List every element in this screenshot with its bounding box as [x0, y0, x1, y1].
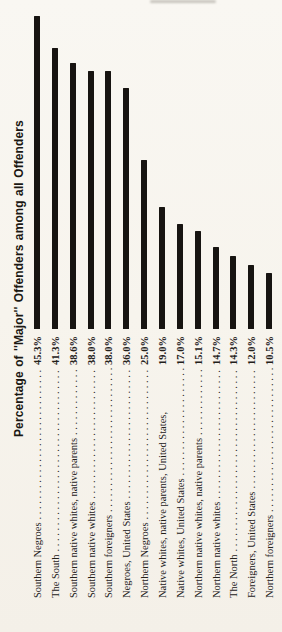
bar: [159, 207, 165, 329]
category-row: Northern native whites. . . . . . . . . …: [210, 336, 223, 598]
category-label: Native whites, native parents, United St…: [156, 412, 169, 598]
value-label: 41.3%: [49, 336, 62, 365]
dot-leader: . . . . . . . . . . . . . . . . . . . . …: [138, 368, 151, 520]
category-row: Southern native whites, native parents. …: [67, 336, 80, 598]
bar: [177, 224, 183, 329]
dot-leader: . . . . . . . . . . . . . . . . . . . . …: [120, 368, 133, 499]
value-label: 14.7%: [210, 336, 223, 365]
category-row: The South. . . . . . . . . . . . . . . .…: [49, 336, 62, 598]
dot-leader: . . . . . . . . . . . . . . . . . . . . …: [67, 368, 80, 435]
dot-leader: . . . . . . . . . . . . . . . . . . . . …: [31, 368, 44, 520]
category-row: Northern native whites, native parents. …: [192, 336, 205, 598]
bar: [141, 160, 147, 329]
bar: [88, 71, 94, 329]
bar: [248, 265, 254, 329]
value-label: 10.5%: [263, 336, 276, 365]
category-label: Southern native whites, native parents: [67, 438, 80, 598]
category-label: Northern native whites, native parents: [192, 438, 205, 598]
value-label: 19.0%: [156, 336, 169, 365]
dot-leader: . . . . . . . . . . . . . . . . . . . . …: [49, 368, 62, 552]
chart-figure: Percentage of ''Major'' Offenders among …: [0, 0, 282, 632]
dot-leader: . . . . . . . . . . . . . . . . . . . . …: [245, 368, 258, 489]
page-crop-artifact: [150, 0, 216, 3]
category-label: Northern native whites: [210, 502, 223, 598]
dot-leader: . . . . . . . . . . . . . . . . . . . . …: [210, 368, 223, 499]
dot-leader: . . . . . . . . . . . . . . . . . . . . …: [263, 368, 276, 512]
category-label: Northern foreigners: [263, 515, 276, 598]
category-label: Native whites, United States: [174, 478, 187, 598]
category-label: The North: [227, 555, 240, 598]
category-label: Southern native whites: [85, 502, 98, 598]
category-row: The North. . . . . . . . . . . . . . . .…: [227, 336, 240, 598]
bar: [213, 247, 219, 329]
bar: [123, 88, 129, 329]
category-row: Southern foreigners. . . . . . . . . . .…: [102, 336, 115, 598]
bar: [70, 63, 76, 329]
value-label: 38.6%: [67, 336, 80, 365]
value-label: 38.0%: [102, 336, 115, 365]
value-label: 25.0%: [138, 336, 151, 365]
category-row: Foreigners, United States. . . . . . . .…: [245, 336, 258, 598]
value-label: 12.0%: [245, 336, 258, 365]
category-label: Foreigners, United States: [245, 492, 258, 598]
category-row: Southern Negroes. . . . . . . . . . . . …: [31, 336, 44, 598]
value-label: 17.0%: [174, 336, 187, 365]
category-label: Southern foreigners: [102, 515, 115, 598]
dot-leader: . . . . . . . . . . . . . . . . . . . . …: [102, 368, 115, 512]
chart-title: Percentage of ''Major'' Offenders among …: [12, 95, 28, 437]
category-row: Northern foreigners. . . . . . . . . . .…: [263, 336, 276, 598]
value-label: 45.3%: [31, 336, 44, 365]
category-row: Native whites, United States. . . . . . …: [174, 336, 187, 598]
category-row: Native whites, native parents, United St…: [156, 336, 169, 598]
dot-leader: . . . . . . . . . . . . . . . . . . . . …: [192, 368, 205, 435]
bar: [195, 231, 201, 329]
bar: [105, 71, 111, 329]
value-label: 36.0%: [120, 336, 133, 365]
category-label: Southern Negroes: [31, 522, 44, 598]
dot-leader: . . . . . . . . . . . . . . . . . . . . …: [174, 368, 187, 476]
category-label: The South: [49, 555, 62, 598]
bar: [52, 48, 58, 329]
bar: [266, 273, 272, 329]
category-label: Northern Negroes: [138, 522, 151, 598]
value-label: 14.3%: [227, 336, 240, 365]
category-row: Northern Negroes. . . . . . . . . . . . …: [138, 336, 151, 598]
category-row: Negroes, United States. . . . . . . . . …: [120, 336, 133, 598]
category-row: Southern native whites. . . . . . . . . …: [85, 336, 98, 598]
category-label: Negroes, United States: [120, 501, 133, 598]
dot-leader: . . . . . . . . . . . . . . . . . . . . …: [227, 368, 240, 552]
value-label: 15.1%: [192, 336, 205, 365]
value-label: 38.0%: [85, 336, 98, 365]
bar: [230, 256, 236, 329]
dot-leader: . . . . . . . . . . . . . . . . . . . . …: [85, 368, 98, 499]
bar: [34, 16, 40, 329]
